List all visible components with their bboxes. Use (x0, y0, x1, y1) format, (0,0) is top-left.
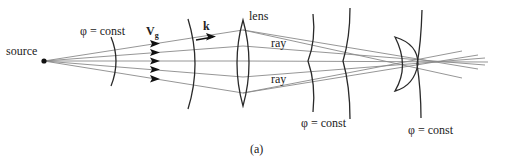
incident-rays (44, 30, 243, 93)
group-velocity-label: Vg (146, 25, 159, 37)
figure-caption: (a) (250, 143, 263, 155)
group-velocity-symbol: V (146, 24, 155, 38)
wavefront-1 (111, 37, 116, 86)
ray-label-upper: ray (271, 37, 286, 49)
source-point (41, 58, 46, 63)
group-velocity-subscript: g (155, 31, 159, 40)
phase-constant-label-3: φ = const (408, 124, 453, 136)
wave-vector-label: k (203, 20, 210, 32)
ray-optics-diagram (0, 0, 506, 163)
phase-constant-label-2: φ = const (301, 117, 346, 129)
source-label: source (6, 45, 37, 57)
lens-label: lens (249, 10, 268, 22)
wavefront-3 (308, 14, 314, 112)
wavefront-4 (343, 8, 350, 119)
ray-label-lower: ray (271, 73, 286, 85)
wavefront-2 (188, 19, 195, 109)
convex-lens (237, 20, 249, 106)
phase-constant-label-1: φ = const (80, 25, 125, 37)
